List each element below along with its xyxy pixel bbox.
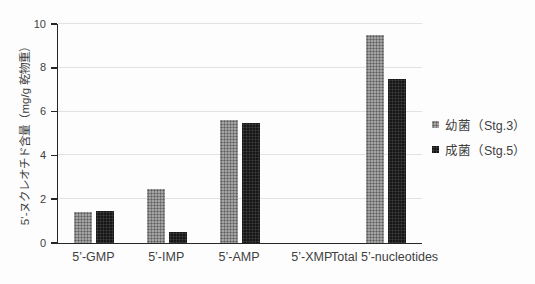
y-tick-mark-4	[51, 155, 57, 157]
x-axis-label-3: 5’-XMP	[291, 250, 332, 264]
y-tick-mark-10	[51, 23, 57, 25]
x-axis-label-4: Total 5’-nucleotides	[331, 250, 438, 264]
bar-series0-1	[147, 189, 165, 243]
legend-item-1: 成菌（Stg.5）	[432, 137, 526, 162]
bar-series0-4	[366, 35, 384, 243]
bar-series1-4	[388, 79, 406, 243]
y-tick-label-8: 8	[16, 60, 46, 75]
bar-series1-0	[96, 211, 114, 243]
legend-label-1: 成菌（Stg.5）	[445, 140, 526, 159]
y-tick-label-10: 10	[16, 17, 46, 32]
bar-series1-2	[242, 123, 260, 243]
legend-marker-icon	[432, 121, 439, 128]
x-axis-label-2: 5’-AMP	[219, 250, 260, 264]
bar-chart: 5’-ヌクレオチド含量（mg/g 乾物重） 幼菌（Stg.3）成菌（Stg.5）…	[0, 0, 535, 284]
bar-series0-0	[74, 212, 92, 243]
x-axis-label-0: 5’-GMP	[72, 250, 114, 264]
legend-label-0: 幼菌（Stg.3）	[445, 115, 526, 134]
legend-marker-icon	[432, 146, 439, 153]
y-tick-mark-0	[51, 242, 57, 244]
legend-item-0: 幼菌（Stg.3）	[432, 112, 526, 137]
bar-series1-1	[169, 232, 187, 243]
plot-area	[57, 24, 422, 244]
gridline-10	[58, 23, 422, 24]
y-tick-label-6: 6	[16, 104, 46, 119]
y-tick-mark-8	[51, 67, 57, 69]
y-tick-label-2: 2	[16, 192, 46, 207]
x-axis-label-1: 5’-IMP	[148, 250, 184, 264]
legend: 幼菌（Stg.3）成菌（Stg.5）	[432, 112, 526, 162]
y-tick-mark-2	[51, 198, 57, 200]
y-axis-title: 5’-ヌクレオチド含量（mg/g 乾物重）	[16, 18, 32, 248]
y-tick-label-0: 0	[16, 236, 46, 251]
bar-series0-2	[220, 120, 238, 243]
y-tick-label-4: 4	[16, 148, 46, 163]
y-tick-mark-6	[51, 111, 57, 113]
